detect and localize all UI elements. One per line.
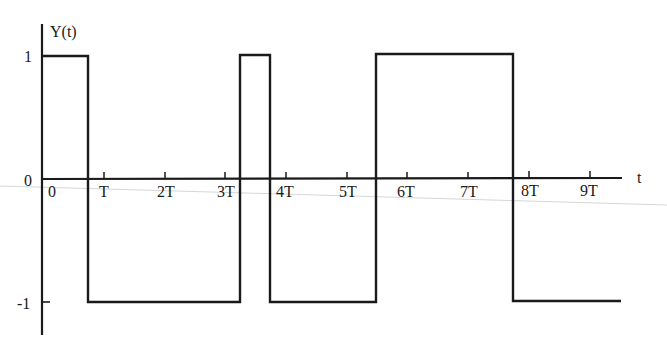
- y-axis-label: Y(t): [50, 23, 77, 41]
- x-tick-label-1: T: [99, 183, 109, 200]
- x-tick-label-2: 2T: [157, 183, 175, 200]
- x-tick-label-5: 5T: [339, 183, 357, 200]
- x-tick-label-8: 8T: [521, 182, 539, 199]
- y-tick-label-zero: 0: [24, 172, 32, 189]
- x-tick-label-7: 7T: [460, 183, 478, 200]
- x-tick-label-3: 3T: [217, 183, 235, 200]
- origin-label: 0: [48, 183, 56, 200]
- x-tick-label-6: 6T: [397, 183, 415, 200]
- x-tick-label-9: 9T: [580, 182, 598, 199]
- y-tick-label-one: 1: [24, 48, 32, 65]
- waveform-figure: Y(t) 1 0 -1 0 T 2T 3T 4T 5T 6T 7T 8T 9T …: [0, 0, 667, 352]
- x-tick-label-4: 4T: [276, 183, 294, 200]
- x-axis: [42, 178, 622, 179]
- x-axis-label: t: [637, 169, 642, 186]
- y-tick-label-minus-one: -1: [17, 295, 30, 312]
